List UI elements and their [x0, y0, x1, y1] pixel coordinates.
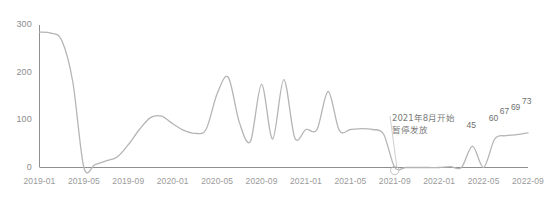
y-tick-label: 200	[2, 67, 32, 77]
chart-plot-area	[0, 0, 545, 198]
y-tick-label: 300	[2, 19, 32, 29]
annotation-label: 2021年8月开始暂停发放	[392, 112, 458, 136]
data-point-label: 67	[500, 106, 509, 116]
data-point-label: 45	[466, 120, 475, 130]
data-point-label: 60	[489, 113, 498, 123]
data-series-line	[40, 32, 529, 173]
x-tick-label: 2022-09	[500, 176, 545, 186]
data-point-label: 69	[511, 102, 520, 112]
y-tick-label: 0	[2, 162, 32, 172]
line-chart: 0100200300 2019-012019-052019-092020-012…	[0, 0, 545, 198]
y-tick-label: 100	[2, 114, 32, 124]
data-point-label: 73	[522, 96, 531, 106]
